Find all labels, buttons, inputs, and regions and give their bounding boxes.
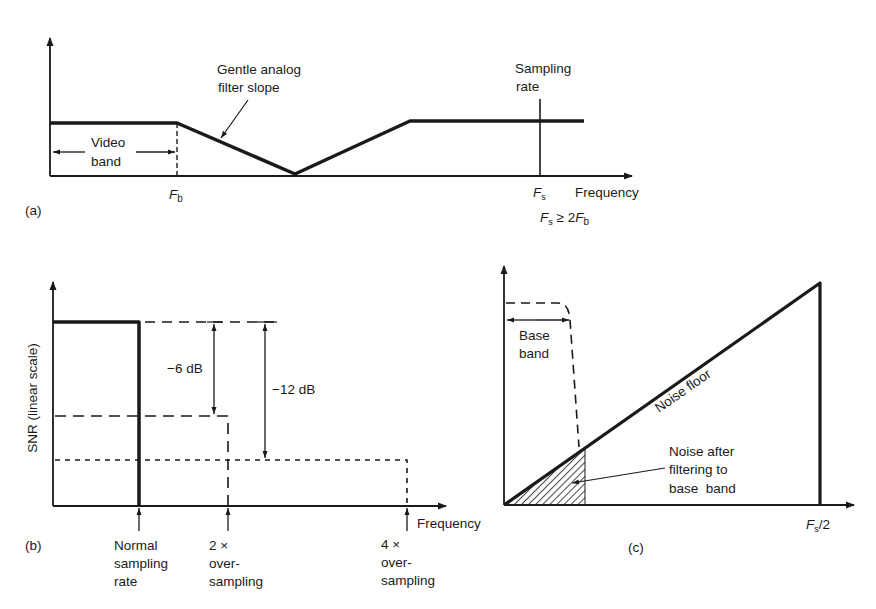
noise-floor-line (504, 283, 820, 505)
panel-c-label: (c) (628, 540, 644, 555)
sampling-rate-label-2: rate (516, 79, 539, 94)
diagram-canvas: Video band Gentle analog filter slope Sa… (0, 0, 876, 609)
marker-2x-3: sampling (209, 574, 263, 589)
fs2-tick-label: Fs/2 (806, 517, 830, 534)
baseband-label-1: Base (519, 328, 550, 343)
sampling-rate-label-1: Sampling (515, 61, 571, 76)
filter-response-curve (50, 121, 584, 174)
video-band-label-1: Video (91, 135, 125, 150)
filter-slope-label-1: Gentle analog (217, 62, 301, 77)
noise-floor-label: Noise floor (652, 366, 714, 416)
panel-b-label: (b) (25, 538, 42, 553)
marker-2x-2: over- (209, 556, 240, 571)
normal-rate-snr (53, 322, 139, 506)
2x-oversampling-snr (55, 416, 228, 506)
video-band-label-2: band (91, 154, 121, 169)
minus12-label: −12 dB (272, 382, 315, 397)
snr-axis-label: SNR (linear scale) (25, 343, 40, 453)
panel-a: Video band Gentle analog filter slope Sa… (25, 38, 639, 227)
marker-normal-1: Normal (114, 538, 158, 553)
panel-c: Base band Noise floor Noise after filter… (504, 266, 854, 555)
marker-4x-2: over- (381, 555, 412, 570)
marker-2x-1: 2 × (209, 538, 228, 553)
noise-after-pointer (572, 468, 665, 483)
filter-slope-pointer (221, 100, 248, 138)
marker-normal-2: sampling (114, 556, 168, 571)
fb-tick-label: Fb (169, 187, 183, 204)
filter-slope-label-2: filter slope (218, 80, 280, 95)
noise-after-label-3: base band (669, 481, 736, 496)
fs-tick-label: Fs (533, 185, 546, 202)
noise-after-label-1: Noise after (669, 444, 735, 459)
4x-oversampling-snr (55, 460, 407, 506)
panel-b: −6 dB −12 dB SNR (linear scale) Normal s… (25, 282, 481, 589)
x-axis-label-a: Frequency (575, 185, 639, 200)
minus6-label: −6 dB (167, 361, 203, 376)
baseband-label-2: band (519, 346, 549, 361)
sampling-condition: Fs ≥ 2Fb (540, 210, 589, 227)
baseband-filter-dashed (506, 303, 579, 447)
panel-a-label: (a) (25, 203, 42, 218)
noise-after-label-2: filtering to (669, 462, 728, 477)
marker-4x-1: 4 × (381, 537, 400, 552)
marker-4x-3: sampling (381, 573, 435, 588)
marker-normal-3: rate (114, 574, 137, 589)
x-axis-label-b: Frequency (417, 516, 481, 531)
